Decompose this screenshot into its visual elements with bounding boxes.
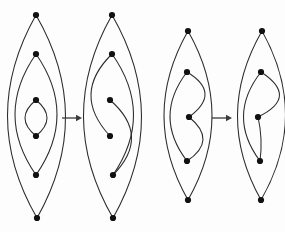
graph-node (110, 172, 116, 178)
graph-node (186, 114, 192, 120)
graph-node (110, 215, 116, 221)
graph-node (184, 69, 190, 75)
graph-node (107, 97, 113, 103)
figure-background (0, 0, 285, 232)
graph-node (109, 12, 115, 18)
graph-node (185, 197, 191, 203)
graph-node (33, 97, 39, 103)
graph-node (33, 51, 39, 57)
graph-node (34, 215, 40, 221)
graph-node (33, 12, 39, 18)
graph-node (185, 28, 191, 34)
figure-canvas (0, 0, 285, 232)
graph-node (257, 158, 263, 164)
graph-node (33, 172, 39, 178)
graph-node (255, 114, 261, 120)
graph-node (107, 133, 113, 139)
graph-node (184, 158, 190, 164)
graph-node (33, 133, 39, 139)
graph-node (258, 197, 264, 203)
graph-transformation-figure (0, 0, 285, 232)
graph-node (109, 51, 115, 57)
graph-node (258, 69, 264, 75)
graph-node (259, 28, 265, 34)
